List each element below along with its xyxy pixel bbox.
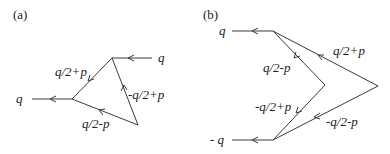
- panel-a-tag: (a): [13, 7, 27, 22]
- arrow-icon: [294, 52, 300, 58]
- label-q-right: q: [158, 50, 165, 65]
- label-right-edge: -q/2+p: [128, 87, 165, 102]
- label-q-left: q: [16, 91, 23, 106]
- panel-b-tag: (b): [203, 7, 218, 22]
- label-outer-bottom: -q/2-p: [326, 114, 358, 129]
- edge-outer-top: [273, 31, 378, 86]
- diagram-a: (a) q q q/2+p -q/2+p q/2-p: [13, 7, 165, 131]
- label-q-bottom: - q: [210, 132, 225, 147]
- label-inner-top: q/2-p: [263, 60, 291, 75]
- label-outer-top: q/2+p: [333, 43, 365, 58]
- label-q-top: q: [219, 23, 226, 38]
- label-inner-bottom: -q/2+p: [255, 99, 292, 114]
- edge-inner-top: [273, 31, 325, 85]
- diagram-b: (b) q - q q/2+p q/2-p -q/2+p -q/2-p: [203, 7, 378, 147]
- label-bottom-edge: q/2-p: [82, 116, 110, 131]
- feynman-diagrams: (a) q q q/2+p -q/2+p q/2-p (b) q - q: [0, 0, 390, 154]
- label-top-edge: q/2+p: [55, 64, 87, 79]
